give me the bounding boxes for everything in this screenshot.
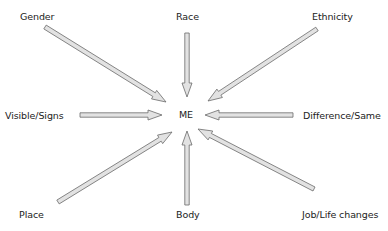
arrow-icon-place bbox=[57, 132, 172, 204]
identity-diagram: ME GenderRaceEthnicityVisible/SignsDiffe… bbox=[0, 0, 388, 231]
center-label-me: ME bbox=[179, 109, 193, 120]
node-label-ethnicity: Ethnicity bbox=[312, 11, 353, 22]
arrow-icon-ethnicity bbox=[208, 27, 318, 101]
node-label-difference-same: Difference/Same bbox=[303, 110, 381, 121]
node-label-body: Body bbox=[176, 209, 200, 220]
arrow-icon-job-life-changes bbox=[198, 129, 315, 191]
arrow-icon-race bbox=[182, 33, 192, 97]
node-label-visible-signs: Visible/Signs bbox=[5, 110, 64, 121]
node-label-gender: Gender bbox=[20, 11, 54, 22]
arrow-icon-body bbox=[182, 131, 192, 205]
node-label-race: Race bbox=[176, 11, 199, 22]
node-label-place: Place bbox=[19, 209, 44, 220]
arrow-icon-difference-same bbox=[205, 110, 293, 120]
arrow-icon-visible-signs bbox=[80, 110, 162, 120]
arrow-icon-gender bbox=[44, 25, 166, 102]
node-label-job-life-changes: Job/Life changes bbox=[302, 209, 378, 220]
